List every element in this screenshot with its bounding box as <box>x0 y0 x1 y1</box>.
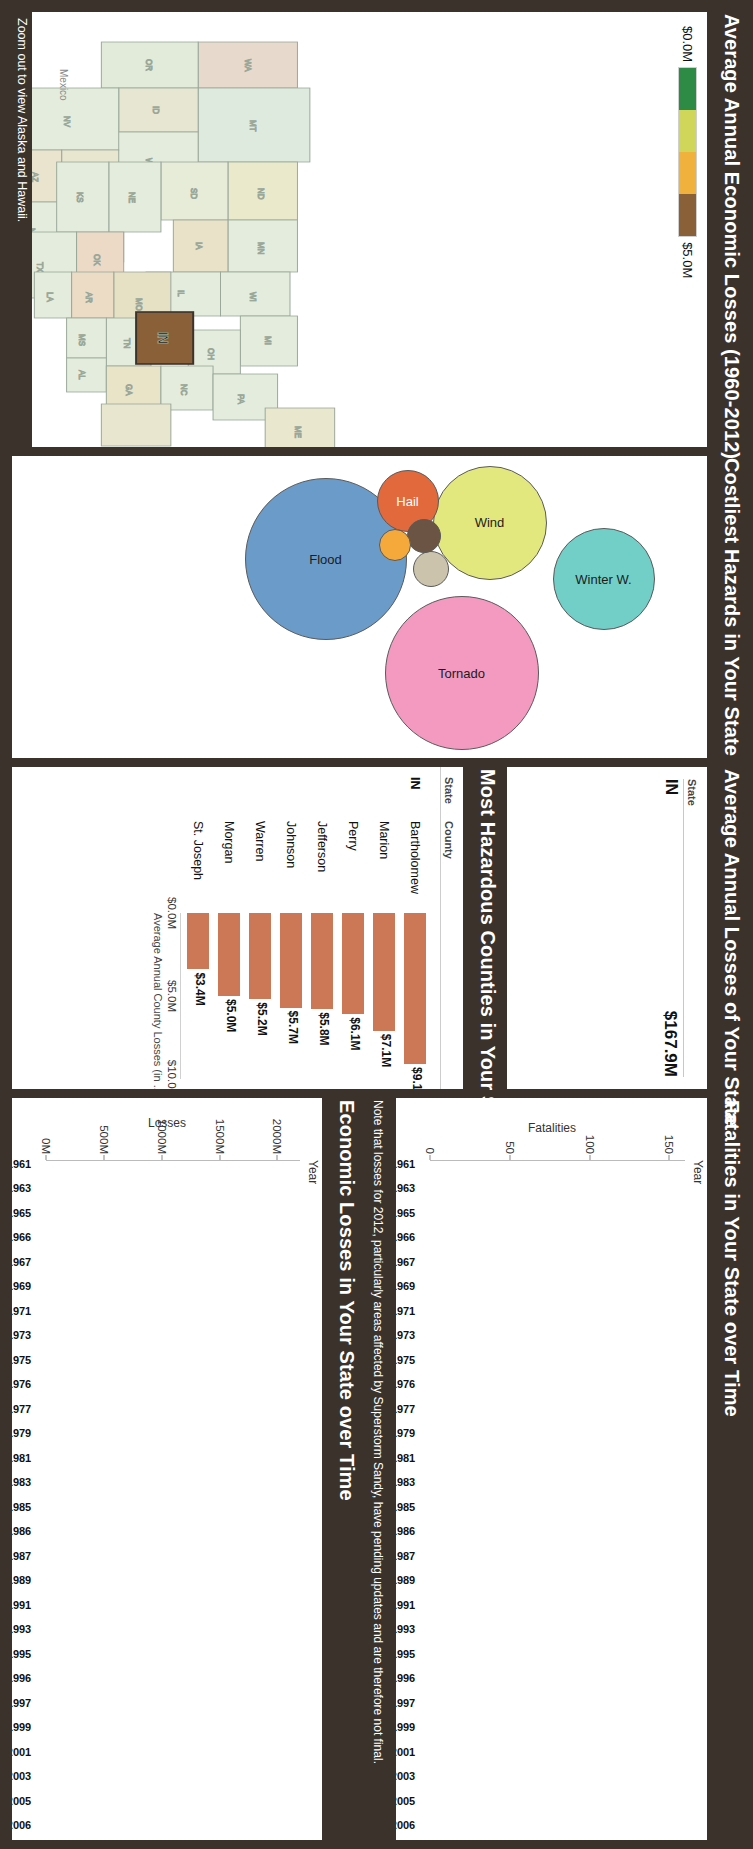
svg-text:TN: TN <box>121 338 132 349</box>
y-tick-label: 50 <box>504 1141 516 1154</box>
y-tick-label: 1000M <box>156 1119 168 1154</box>
county-axis: $0.0M $5.0M $10.0M <box>164 913 181 1079</box>
bubble-wind[interactable]: Wind <box>433 466 547 580</box>
fatalities-panel-title: Fatalities in Your State over Time <box>716 1098 742 1840</box>
svg-text:IN: IN <box>155 332 172 344</box>
svg-text:LA: LA <box>45 292 56 302</box>
county-axis-tick-2: $10.0M <box>166 1060 178 1089</box>
fatalities-x-axis-title: Year <box>691 1160 705 1184</box>
state-losses-table: State IN $167.9M <box>660 767 707 1089</box>
table-row[interactable]: Morgan $5.0M <box>214 777 244 1079</box>
bubble-other-1[interactable] <box>413 551 449 587</box>
column-time-series: Fatalities in Your State over Time Year … <box>12 1098 742 1840</box>
fatalities-x-labels: 1961196319651966196719691971197319751976… <box>401 1161 431 1830</box>
county-name: Johnson <box>276 821 306 913</box>
svg-text:IA: IA <box>193 242 204 250</box>
map-label-mexico: Mexico <box>58 69 69 101</box>
county-bar-wrap: $6.1M <box>342 913 364 1079</box>
column-bubbles: Costliest Hazards in Your State Flood To… <box>12 456 742 758</box>
state-panel-title: Average Annual Losses of Your State <box>716 767 742 1089</box>
svg-text:WI: WI <box>248 292 259 302</box>
svg-text:PA: PA <box>236 394 247 404</box>
fatalities-bars[interactable] <box>431 1161 686 1830</box>
table-row[interactable]: Jefferson $5.8M <box>307 777 337 1079</box>
svg-text:SD: SD <box>189 188 200 200</box>
legend-color-ramp <box>678 67 697 237</box>
county-table-header: State County <box>440 767 463 1089</box>
losses-x-axis-title: Year <box>307 1160 321 1184</box>
svg-text:OH: OH <box>206 348 217 360</box>
county-value: $3.4M <box>193 972 207 1005</box>
y-tick-label: 1500M <box>214 1119 226 1154</box>
table-row[interactable]: St. Joseph $3.4M <box>183 777 213 1079</box>
legend-max-label: $5.0M <box>680 242 695 278</box>
svg-text:MT: MT <box>248 120 259 132</box>
county-name: Perry <box>338 821 368 913</box>
county-axis-tick-0: $0.0M <box>166 897 178 929</box>
county-name: Morgan <box>214 821 244 913</box>
bubble-tornado[interactable]: Tornado <box>385 596 539 750</box>
svg-text:ID: ID <box>151 106 162 114</box>
map-panel-title: Average Annual Economic Losses (1960-201… <box>716 12 742 447</box>
county-header-state: State <box>443 777 455 821</box>
county-value: $5.2M <box>255 1002 269 1035</box>
data-note: Note that losses for 2012, particularly … <box>367 1098 388 1822</box>
x-tick-label: 2006 <box>397 1819 416 1840</box>
economic-losses-over-time-chart[interactable]: Year Losses 0M500M1000M1500M2000M 196119… <box>12 1098 323 1840</box>
scanned-dashboard-page: Average Annual Economic Losses (1960-201… <box>0 0 753 1849</box>
most-hazardous-counties-panel[interactable]: State County IN Bartholomew $9.1M Marion… <box>12 767 463 1089</box>
y-tick-label: 0 <box>425 1148 437 1154</box>
costliest-hazards-bubble-chart[interactable]: Flood Tornado Wind Winter W. Hail <box>12 456 707 758</box>
y-tick-label: 2000M <box>271 1119 283 1154</box>
fatalities-y-axis: 050100150 <box>431 1134 686 1158</box>
us-map-svg[interactable]: WA OR MT ID WY NV UT AZ CO NM ND SD NE K… <box>12 12 707 447</box>
state-table-row[interactable]: IN $167.9M <box>660 779 683 1077</box>
county-name: Warren <box>245 821 275 913</box>
losses-x-labels: 1961196319651966196719691971197319751976… <box>16 1161 46 1830</box>
map-zoom-note: Zoom out to view Alaska and Hawaii. <box>12 12 32 447</box>
svg-text:AR: AR <box>84 292 95 304</box>
svg-text:MN: MN <box>256 242 267 254</box>
county-value: $5.7M <box>286 1011 300 1044</box>
svg-text:IL: IL <box>176 290 187 297</box>
table-row[interactable]: IN Bartholomew $9.1M <box>400 777 430 1079</box>
us-choropleth-map-panel[interactable]: WA OR MT ID WY NV UT AZ CO NM ND SD NE K… <box>12 12 707 447</box>
county-name: Jefferson <box>307 821 337 913</box>
bubble-winter-weather[interactable]: Winter W. <box>553 528 655 630</box>
county-value: $5.8M <box>317 1012 331 1045</box>
table-row[interactable]: Johnson $5.7M <box>276 777 306 1079</box>
table-row[interactable]: Warren $5.2M <box>245 777 275 1079</box>
county-state-code: IN <box>400 777 430 821</box>
county-value: $5.0M <box>224 999 238 1032</box>
fatalities-over-time-chart[interactable]: Year Fatalities 050100150 19611963196519… <box>397 1098 708 1840</box>
svg-text:OR: OR <box>144 59 155 71</box>
bubble-panel-title: Costliest Hazards in Your State <box>716 456 742 758</box>
state-table-header: State <box>683 779 698 1077</box>
bubble-other-3[interactable] <box>379 529 411 561</box>
state-average-losses-panel[interactable]: State IN $167.9M <box>507 767 707 1089</box>
svg-text:KS: KS <box>74 192 85 203</box>
losses-bars[interactable] <box>46 1161 301 1830</box>
table-row[interactable]: Perry $6.1M <box>338 777 368 1079</box>
bubble-other-2[interactable] <box>407 519 441 553</box>
svg-text:OK: OK <box>92 254 103 266</box>
table-row[interactable]: Marion $7.1M <box>369 777 399 1079</box>
state-column-header: State <box>686 779 698 979</box>
svg-text:TX: TX <box>35 262 46 272</box>
y-tick-label: 100 <box>584 1135 596 1154</box>
x-tick-label: 2006 <box>12 1819 31 1840</box>
dashboard-board: Average Annual Economic Losses (1960-201… <box>12 12 742 1840</box>
dashboard-canvas: Average Annual Economic Losses (1960-201… <box>0 0 753 1849</box>
legend-min-label: $0.0M <box>680 26 695 62</box>
y-tick-label: 0M <box>40 1138 52 1154</box>
y-tick-label: 150 <box>663 1135 675 1154</box>
county-value: $7.1M <box>379 1034 393 1067</box>
map-legend: $0.0M $5.0M <box>678 26 697 278</box>
county-value: $6.1M <box>348 1017 362 1050</box>
fatalities-plot: 1961196319651966196719691971197319751976… <box>431 1160 686 1830</box>
county-bar-wrap: $9.1M <box>404 913 426 1079</box>
svg-text:NE: NE <box>126 192 137 203</box>
losses-y-axis: 0M500M1000M1500M2000M <box>46 1134 301 1158</box>
county-axis-tick-1: $5.0M <box>166 980 178 1012</box>
svg-text:MO: MO <box>134 298 145 311</box>
